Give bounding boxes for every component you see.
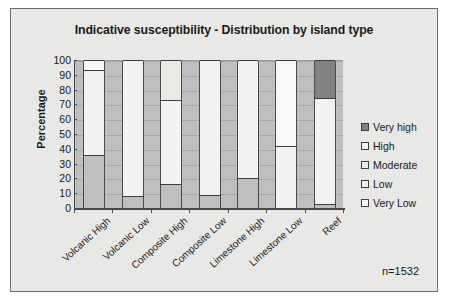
bar-segment bbox=[161, 60, 181, 100]
y-axis-tick-labels: 0102030405060708090100 bbox=[41, 60, 71, 208]
y-tick-label: 0 bbox=[45, 202, 71, 214]
legend-swatch-icon bbox=[361, 180, 369, 188]
legend-label: Very high bbox=[373, 121, 417, 133]
legend-label: High bbox=[373, 140, 395, 152]
legend-item[interactable]: Low bbox=[361, 174, 439, 193]
y-tick-label: 40 bbox=[45, 143, 71, 155]
legend-item[interactable]: Moderate bbox=[361, 155, 439, 174]
y-tick-label: 80 bbox=[45, 84, 71, 96]
y-tick-label: 100 bbox=[45, 54, 71, 66]
bar-segment bbox=[161, 100, 181, 184]
legend-swatch-icon bbox=[361, 199, 369, 207]
legend-label: Moderate bbox=[373, 159, 417, 171]
chart-title: Indicative susceptibility - Distribution… bbox=[11, 23, 437, 37]
y-tick-mark bbox=[74, 149, 77, 150]
y-tick-label: 90 bbox=[45, 69, 71, 81]
sample-size-annotation: n=1532 bbox=[382, 265, 419, 277]
legend-label: Low bbox=[373, 178, 392, 190]
legend-swatch-icon bbox=[361, 142, 369, 150]
y-tick-mark bbox=[74, 208, 77, 209]
bar-segment bbox=[200, 60, 220, 195]
y-tick-label: 70 bbox=[45, 98, 71, 110]
legend-item[interactable]: Very high bbox=[361, 117, 439, 136]
x-tick-mark bbox=[74, 209, 75, 213]
y-tick-mark bbox=[74, 75, 77, 76]
bar-segment bbox=[84, 60, 104, 70]
legend-swatch-icon bbox=[361, 123, 369, 131]
bar-segment bbox=[123, 60, 143, 196]
bar-segment bbox=[276, 60, 296, 146]
x-axis-tick-labels: Volcanic HighVolcanic LowComposite HighC… bbox=[74, 209, 354, 279]
bar-segment bbox=[238, 60, 258, 178]
y-tick-mark bbox=[74, 104, 77, 105]
y-tick-mark bbox=[74, 119, 77, 120]
y-tick-label: 60 bbox=[45, 113, 71, 125]
y-tick-mark bbox=[74, 90, 77, 91]
y-tick-label: 50 bbox=[45, 128, 71, 140]
x-tick-label-text: Reef bbox=[320, 215, 343, 237]
y-tick-mark bbox=[74, 193, 77, 194]
bar-segment bbox=[315, 60, 335, 98]
y-tick-mark bbox=[74, 164, 77, 165]
legend-item[interactable]: Very Low bbox=[361, 193, 439, 212]
y-tick-mark bbox=[74, 134, 77, 135]
bar-segment bbox=[84, 70, 104, 154]
y-tick-mark bbox=[74, 60, 77, 61]
legend-label: Very Low bbox=[373, 197, 416, 209]
legend-item[interactable]: High bbox=[361, 136, 439, 155]
chart-frame: Indicative susceptibility - Distribution… bbox=[10, 8, 438, 292]
legend-swatch-icon bbox=[361, 161, 369, 169]
bar-column[interactable] bbox=[83, 61, 105, 208]
y-tick-mark bbox=[74, 178, 77, 179]
y-tick-label: 30 bbox=[45, 158, 71, 170]
y-tick-label: 20 bbox=[45, 172, 71, 184]
chart-legend: Very highHighModerateLowVery Low bbox=[361, 117, 439, 212]
y-tick-label: 10 bbox=[45, 187, 71, 199]
bar-segment bbox=[84, 155, 104, 208]
